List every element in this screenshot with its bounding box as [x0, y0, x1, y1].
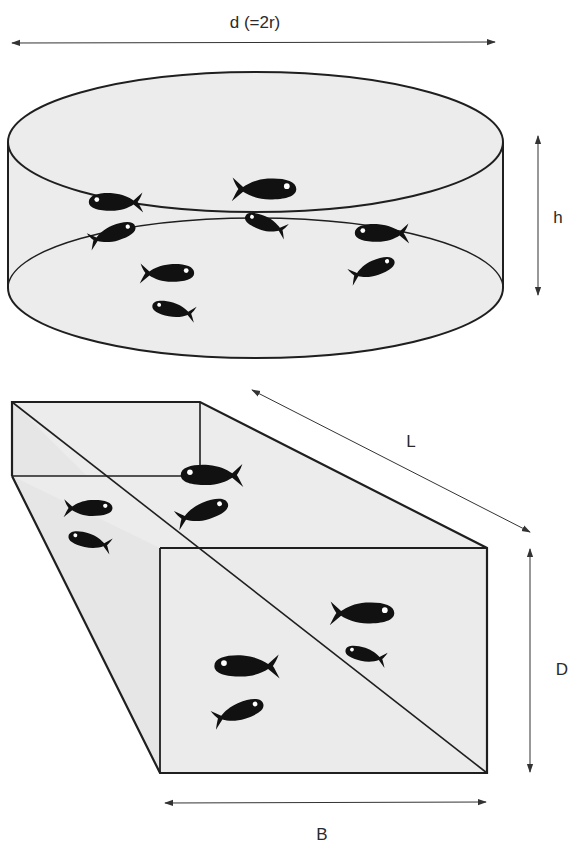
tank-front-face	[160, 548, 487, 773]
rectangular-tank: L D B	[12, 390, 568, 844]
breadth-label: B	[316, 825, 327, 844]
depth-label: D	[556, 660, 568, 679]
length-label: L	[406, 432, 415, 451]
diameter-label: d (=2r)	[230, 13, 281, 32]
diameter-arrow	[12, 42, 495, 43]
cylinder-tank: d (=2r) h	[8, 13, 563, 358]
tank-dimensions-diagram: d (=2r) h	[0, 0, 578, 861]
breadth-arrow	[165, 802, 486, 803]
height-label: h	[553, 208, 562, 227]
